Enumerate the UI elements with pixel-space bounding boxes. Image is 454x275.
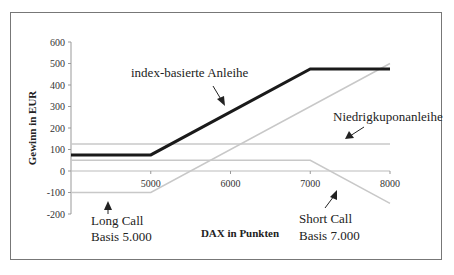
- arrow-niedrigkupon: [350, 127, 364, 136]
- y-tick-label: 500: [50, 58, 65, 69]
- x-axis-ticks: 5000600070008000: [141, 171, 400, 189]
- annotation-short-call-l1: Short Call: [299, 211, 352, 226]
- y-tick-label: -200: [47, 209, 65, 220]
- annotation-long-call-l1: Long Call: [91, 213, 144, 228]
- arrowhead-icon: [330, 190, 337, 200]
- x-tick-label: 5000: [141, 178, 161, 189]
- x-tick-label: 7000: [300, 178, 320, 189]
- chart-canvas: 6005004003002001000-100-200 500060007000…: [0, 0, 454, 275]
- y-axis-ticks: 6005004003002001000-100-200: [47, 37, 71, 220]
- y-tick-label: 300: [50, 101, 65, 112]
- arrowhead-icon: [217, 96, 225, 106]
- y-tick-label: 600: [50, 37, 65, 48]
- arrowhead-icon: [104, 201, 112, 210]
- y-axis-label: Gewinn in EUR: [26, 90, 38, 166]
- y-tick-label: 400: [50, 80, 65, 91]
- y-tick-label: -100: [47, 187, 65, 198]
- x-tick-label: 6000: [221, 178, 241, 189]
- annotation-index-anleihe: index-basierte Anleihe: [131, 65, 249, 80]
- x-axis-label: DAX in Punkten: [201, 227, 279, 239]
- arrowhead-icon: [345, 131, 354, 139]
- x-tick-label: 8000: [380, 178, 400, 189]
- y-tick-label: 200: [50, 123, 65, 134]
- annotation-short-call-l2: Basis 7.000: [299, 228, 360, 243]
- annotation-long-call-l2: Basis 5.000: [91, 229, 152, 244]
- y-tick-label: 0: [60, 166, 65, 177]
- annotation-niedrigkupon: Niedrigkuponanleihe: [333, 109, 443, 124]
- y-tick-label: 100: [50, 144, 65, 155]
